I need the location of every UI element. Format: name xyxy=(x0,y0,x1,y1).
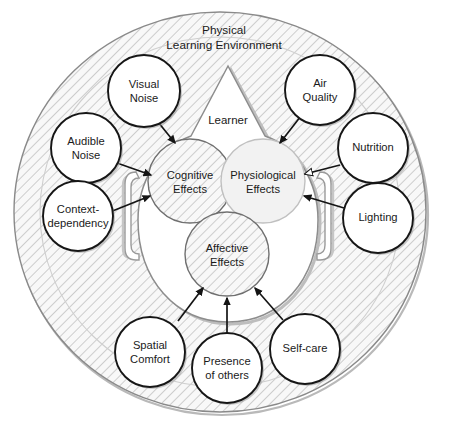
diagram-canvas: Physical Learning Environment Learner Co… xyxy=(0,0,451,427)
cognitive-effects-label-line-1: Cognitive xyxy=(167,169,214,181)
factor-audible-noise[interactable]: Audible Noise xyxy=(51,113,123,185)
context-dependency-label-line-2: dependency xyxy=(48,217,109,229)
visual-noise-label-line-2: Noise xyxy=(130,92,159,104)
factor-visual-noise[interactable]: Visual Noise xyxy=(108,55,182,129)
factor-nutrition[interactable]: Nutrition xyxy=(338,113,410,185)
audible-noise-label-line-2: Noise xyxy=(72,149,101,161)
visual-noise-label-line-1: Visual xyxy=(129,78,159,90)
spatial-comfort-label-line-1: Spatial xyxy=(133,339,167,351)
physiological-effects-circle[interactable] xyxy=(221,139,305,223)
factor-spatial-comfort[interactable]: Spatial Comfort xyxy=(115,317,187,389)
effect-cognitive[interactable]: Cognitive Effects xyxy=(148,139,232,223)
audible-noise-label-line-1: Audible xyxy=(67,135,104,147)
cognitive-effects-label-line-2: Effects xyxy=(173,183,207,195)
affective-effects-circle[interactable] xyxy=(185,212,269,296)
environment-title-line-2: Learning Environment xyxy=(166,38,282,52)
learner-label: Learner xyxy=(208,114,248,126)
context-dependency-label-line-1: Context- xyxy=(57,203,100,215)
effect-physiological[interactable]: Physiological Effects xyxy=(221,139,305,223)
cognitive-effects-circle[interactable] xyxy=(148,139,232,223)
factor-context-dependency[interactable]: Context- dependency xyxy=(43,181,115,253)
presence-of-others-label-line-1: Presence xyxy=(203,355,250,367)
lighting-label: Lighting xyxy=(358,211,397,223)
factor-lighting[interactable]: Lighting xyxy=(343,183,415,255)
learning-environment-diagram: Physical Learning Environment Learner Co… xyxy=(0,0,451,427)
air-quality-label-line-2: Quality xyxy=(303,91,338,103)
self-care-label: Self-care xyxy=(283,342,328,354)
air-quality-label-line-1: Air xyxy=(313,77,327,89)
affective-effects-label-line-2: Effects xyxy=(210,256,244,268)
nutrition-label: Nutrition xyxy=(352,141,394,153)
affective-effects-label-line-1: Affective xyxy=(206,242,249,254)
effect-affective[interactable]: Affective Effects xyxy=(185,212,269,296)
factor-air-quality[interactable]: Air Quality xyxy=(285,55,357,127)
physiological-effects-label-line-1: Physiological xyxy=(230,169,295,181)
factor-presence-of-others[interactable]: Presence of others xyxy=(192,333,264,405)
presence-of-others-label-line-2: of others xyxy=(205,369,249,381)
physiological-effects-label-line-2: Effects xyxy=(246,183,280,195)
spatial-comfort-label-line-2: Comfort xyxy=(130,353,171,365)
factor-self-care[interactable]: Self-care xyxy=(270,314,342,386)
environment-title-line-1: Physical xyxy=(202,23,246,37)
